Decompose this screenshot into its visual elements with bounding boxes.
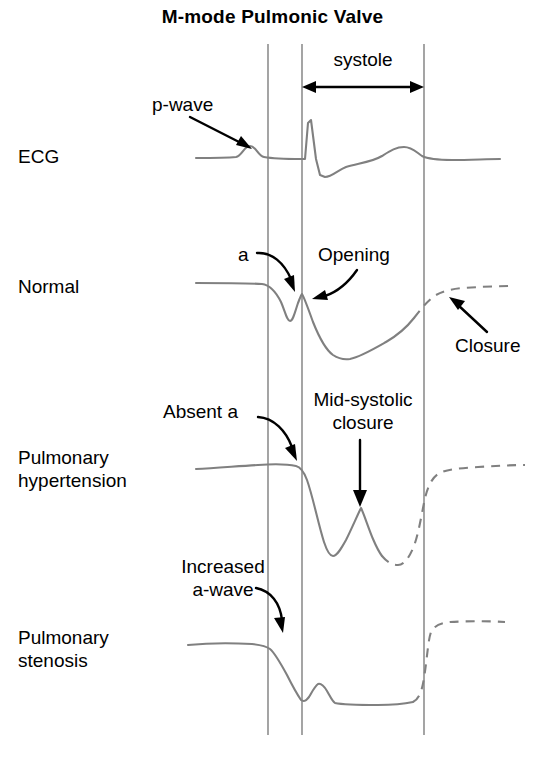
trace-pulmonary-hypertension-closure — [382, 465, 525, 565]
p-wave-pointer-arrow — [190, 117, 252, 149]
systole-span-arrow — [302, 81, 424, 93]
figure-canvas: M-mode Pulmonic Valve ECG Normal Pulmona… — [0, 0, 545, 781]
trace-pulmonary-hypertension — [196, 464, 382, 556]
m-mode-tracing-diagram — [0, 0, 545, 781]
absent-a-pointer-arrow — [258, 417, 297, 461]
trace-normal — [196, 283, 414, 359]
closure-pointer-arrow — [449, 297, 487, 332]
trace-pulmonary-stenosis — [188, 643, 413, 705]
mid-systolic-closure-pointer-arrow — [353, 440, 367, 507]
a-wave-pointer-arrow — [257, 253, 295, 292]
opening-pointer-arrow — [312, 270, 357, 300]
increased-a-wave-pointer-arrow — [256, 588, 285, 633]
trace-ecg — [196, 120, 500, 177]
trace-pulmonary-stenosis-closure — [413, 621, 505, 702]
